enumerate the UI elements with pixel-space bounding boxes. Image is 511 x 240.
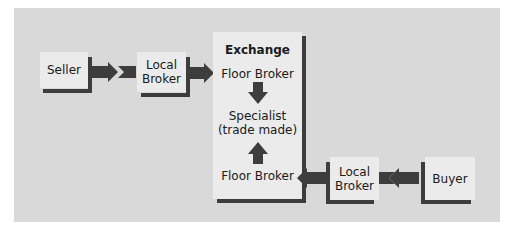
buyer-label: Buyer xyxy=(432,172,467,186)
floor-broker-top-label: Floor Broker xyxy=(213,67,302,81)
local-broker-right-shadow-bottom xyxy=(326,200,374,204)
exchange-title: Exchange xyxy=(213,43,302,57)
arrow-up-icon xyxy=(248,142,268,164)
local-broker-left-line2: Broker xyxy=(142,72,181,86)
specialist-line1: Specialist xyxy=(213,109,302,123)
buyer-shadow-bottom xyxy=(421,200,471,204)
arrow-left-icon xyxy=(297,168,327,188)
floor-broker-bottom-label: Floor Broker xyxy=(213,169,302,183)
seller-label: Seller xyxy=(47,63,81,77)
arrow-down-icon xyxy=(248,82,268,104)
exchange-shadow-bottom xyxy=(217,199,306,203)
local-broker-left-box: Local Broker xyxy=(137,52,186,92)
local-broker-left-line1: Local xyxy=(146,58,177,72)
buyer-box: Buyer xyxy=(425,157,475,200)
seller-shadow-bottom xyxy=(43,89,92,93)
seller-box: Seller xyxy=(40,52,88,88)
local-broker-right-box: Local Broker xyxy=(330,157,379,200)
local-broker-right-line1: Local xyxy=(339,165,370,179)
local-broker-right-line2: Broker xyxy=(335,179,374,193)
specialist-line2: (trade made) xyxy=(213,123,302,137)
local-broker-left-shadow-bottom xyxy=(141,93,190,97)
